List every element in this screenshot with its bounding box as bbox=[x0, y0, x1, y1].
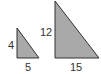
small-triangle-horizontal-label: 5 bbox=[25, 62, 31, 73]
large-triangle-horizontal-label: 15 bbox=[70, 62, 82, 73]
large-triangle-vertical-label: 12 bbox=[40, 27, 52, 38]
small-triangle bbox=[17, 28, 39, 58]
large-triangle bbox=[55, 1, 99, 58]
small-triangle-vertical-label: 4 bbox=[8, 40, 14, 51]
